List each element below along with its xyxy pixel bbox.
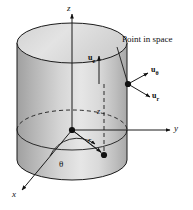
origin-dot: [69, 127, 75, 133]
point-in-space-caption: Point in space: [122, 35, 173, 44]
x-axis-label: x: [12, 190, 16, 199]
radius-label: r: [88, 137, 91, 145]
u-z-sub: z: [92, 58, 95, 64]
u-theta-arrow: [128, 73, 148, 84]
u-theta-label: uθ: [151, 66, 159, 76]
diagram-canvas: [0, 0, 193, 210]
figure-cylindrical-coordinates: z y x Point in space θ r z uz uθ ur: [0, 0, 193, 210]
z-axis-label: z: [67, 4, 71, 13]
u-theta-sub: θ: [155, 70, 158, 76]
y-axis-label: y: [174, 124, 178, 133]
theta-label: θ: [59, 160, 63, 169]
u-r-sub: r: [156, 96, 159, 102]
u-r-arrow: [128, 84, 150, 97]
u-r-label: ur: [152, 92, 159, 102]
projected-point-dot: [101, 152, 107, 158]
point-in-space-dot: [125, 81, 131, 87]
u-z-label: uz: [88, 54, 95, 64]
height-label: z: [97, 108, 100, 116]
